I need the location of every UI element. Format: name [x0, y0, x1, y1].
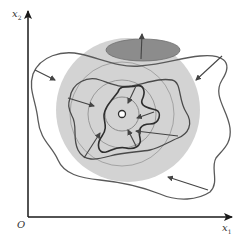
x-axis-label-sub: 1	[228, 228, 232, 235]
origin-label: O	[17, 219, 25, 230]
center-point	[119, 111, 126, 118]
diagram-canvas	[0, 0, 247, 241]
x-axis-label: x1	[222, 222, 231, 235]
dark-ellipse-top	[106, 39, 180, 61]
y-axis-label-sub: 2	[18, 14, 22, 21]
y-axis-label: x2	[12, 8, 21, 21]
